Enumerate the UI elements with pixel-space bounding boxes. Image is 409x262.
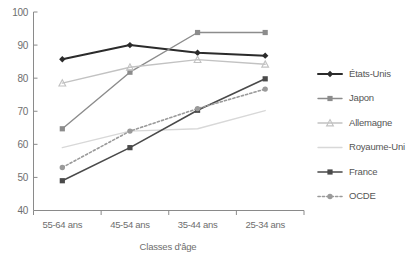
- x-axis-tick-label: 25-34 ans: [245, 219, 285, 230]
- data-series-group: [59, 30, 269, 183]
- legend-item-label: États-Unis: [349, 68, 391, 79]
- series-allemagne: [59, 56, 269, 86]
- data-point-marker: [195, 106, 200, 111]
- legend-swatch-marker: [327, 96, 332, 101]
- legend-item-allemagne[interactable]: Allemagne: [318, 117, 392, 128]
- data-point-marker: [127, 145, 132, 150]
- data-point-marker: [262, 86, 267, 91]
- y-axis-tick-label: 50: [17, 172, 28, 183]
- data-point-marker: [195, 30, 200, 35]
- legend-swatch-marker: [327, 71, 333, 77]
- x-axis-tick-label: 55-64 ans: [43, 219, 83, 230]
- data-point-marker: [60, 165, 65, 170]
- y-axis-tick-label: 60: [17, 139, 28, 150]
- legend-item-ocde[interactable]: OCDE: [318, 190, 376, 201]
- series-line: [62, 60, 265, 83]
- y-axis-tick-label: 80: [17, 73, 28, 84]
- y-axis-tick-label: 90: [17, 40, 28, 51]
- line-chart: 100908070605040 55-64 ans45-54 ans35-44 …: [0, 0, 409, 262]
- legend-item-label: Royaume-Uni: [349, 141, 405, 152]
- legend-item-label: France: [349, 166, 377, 177]
- y-axis-tick-label: 40: [17, 205, 28, 216]
- x-axis-tick-label: 45-54 ans: [110, 219, 150, 230]
- series-france: [60, 76, 268, 183]
- legend-swatch-marker: [327, 194, 332, 199]
- series-japon: [60, 30, 268, 131]
- y-axis-tick-label: 100: [12, 7, 29, 18]
- data-point-marker: [262, 52, 268, 58]
- chart-legend: États-UnisJaponAllemagneRoyaume-UniFranc…: [318, 68, 405, 202]
- legend-item-label: Japon: [349, 92, 374, 103]
- data-point-marker: [194, 49, 200, 55]
- x-axis-tick-label: 35-44 ans: [178, 219, 218, 230]
- series-line: [62, 33, 265, 129]
- series-line: [62, 79, 265, 181]
- data-point-marker: [59, 56, 65, 62]
- data-point-marker: [60, 178, 65, 183]
- data-point-marker: [263, 76, 268, 81]
- y-axis-tick-marks: [34, 12, 38, 211]
- legend-swatch-marker: [327, 169, 332, 174]
- legend-item-label: OCDE: [349, 190, 376, 201]
- data-point-marker: [60, 126, 65, 131]
- data-point-marker: [127, 42, 133, 48]
- y-axis-tick-label: 70: [17, 106, 28, 117]
- legend-item-japon[interactable]: Japon: [318, 92, 374, 103]
- legend-item--tats-unis[interactable]: États-Unis: [318, 68, 391, 79]
- legend-item-france[interactable]: France: [318, 166, 377, 177]
- data-point-marker: [263, 30, 268, 35]
- x-axis-tick-marks: [34, 211, 305, 216]
- data-point-marker: [127, 128, 132, 133]
- y-axis-tick-labels: 100908070605040: [12, 7, 29, 217]
- chart-canvas: 100908070605040 55-64 ans45-54 ans35-44 …: [0, 0, 409, 262]
- legend-item-label: Allemagne: [349, 117, 392, 128]
- x-axis-tick-labels: 55-64 ans45-54 ans35-44 ans25-34 ans: [43, 219, 286, 230]
- x-axis-title: Classes d'âge: [140, 241, 197, 252]
- legend-item-royaume-uni[interactable]: Royaume-Uni: [318, 141, 405, 152]
